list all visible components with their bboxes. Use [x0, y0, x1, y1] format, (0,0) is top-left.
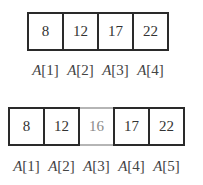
array-name: A — [67, 62, 76, 78]
index-label: A[3] — [97, 62, 134, 79]
array-after-labels: A[1] A[2] A[3] A[4] A[5] — [8, 158, 185, 175]
array-cell: 22 — [132, 12, 169, 51]
array-name: A — [102, 62, 111, 78]
array-name: A — [32, 62, 41, 78]
array-name: A — [48, 158, 57, 174]
array-cell: 8 — [27, 12, 64, 51]
array-cell: 8 — [8, 107, 45, 146]
index-label: A[2] — [62, 62, 99, 79]
array-index: [4] — [127, 158, 145, 174]
array-name: A — [118, 158, 127, 174]
array-index: [2] — [76, 62, 94, 78]
index-label: A[4] — [113, 158, 150, 175]
index-label: A[1] — [8, 158, 45, 175]
index-label: A[2] — [43, 158, 80, 175]
array-index: [5] — [162, 158, 180, 174]
array-index: [1] — [22, 158, 40, 174]
array-index: [4] — [146, 62, 164, 78]
array-before-labels: A[1] A[2] A[3] A[4] — [27, 62, 169, 79]
array-after: 8 12 16 17 22 — [8, 107, 185, 146]
array-name: A — [83, 158, 92, 174]
array-cell: 12 — [62, 12, 99, 51]
inserted-array-cell: 16 — [78, 107, 115, 146]
index-label: A[5] — [148, 158, 185, 175]
array-index: [1] — [41, 62, 59, 78]
array-before: 8 12 17 22 — [27, 12, 169, 51]
array-index: [3] — [111, 62, 129, 78]
array-name: A — [13, 158, 22, 174]
array-index: [2] — [57, 158, 75, 174]
array-cell: 17 — [97, 12, 134, 51]
array-name: A — [153, 158, 162, 174]
index-label: A[1] — [27, 62, 64, 79]
array-name: A — [137, 62, 146, 78]
index-label: A[3] — [78, 158, 115, 175]
array-index: [3] — [92, 158, 110, 174]
array-cell: 22 — [148, 107, 185, 146]
array-cell: 12 — [43, 107, 80, 146]
array-cell: 17 — [113, 107, 150, 146]
index-label: A[4] — [132, 62, 169, 79]
